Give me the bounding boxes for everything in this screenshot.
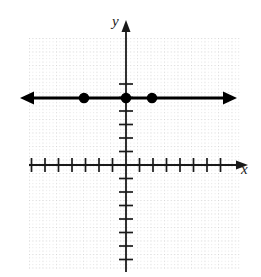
plotted-point: [80, 94, 89, 103]
y-axis-label: y: [112, 14, 119, 29]
graph-figure: y x: [0, 0, 261, 277]
plotted-point: [148, 94, 157, 103]
x-axis-label: x: [241, 162, 248, 177]
plotted-point: [122, 94, 131, 103]
plotted-line-left-arrowhead: [20, 92, 34, 105]
y-axis-arrowhead: [122, 20, 131, 32]
grid-major-dots: [29, 38, 240, 270]
grid-background: [29, 38, 240, 270]
coordinate-plane-canvas: [0, 0, 261, 277]
